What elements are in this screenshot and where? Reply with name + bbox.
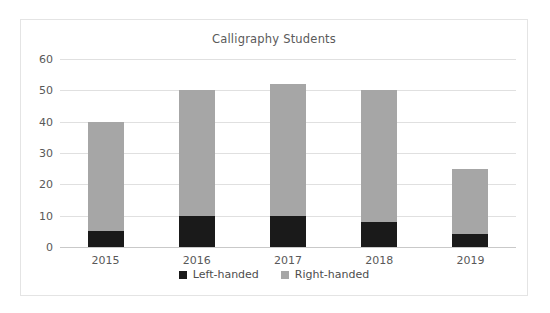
legend-item-left-handed[interactable]: Left-handed	[179, 268, 259, 281]
legend-label-right-handed: Right-handed	[295, 268, 369, 281]
bar-segment[interactable]	[88, 231, 124, 247]
y-axis-tick-label: 0	[46, 241, 53, 254]
bar-segment[interactable]	[361, 222, 397, 247]
legend-swatch-right-handed	[281, 271, 289, 279]
bar-group[interactable]: 2017	[270, 84, 306, 247]
legend-item-right-handed[interactable]: Right-handed	[281, 268, 369, 281]
bar-segment[interactable]	[270, 216, 306, 247]
x-axis-tick-label: 2015	[88, 254, 124, 267]
bar-segment[interactable]	[88, 122, 124, 232]
axis-baseline	[60, 247, 516, 248]
y-axis-tick-label: 10	[39, 209, 53, 222]
chart-frame: Calligraphy Students 0102030405060 20152…	[20, 19, 528, 296]
bar-segment[interactable]	[179, 216, 215, 247]
legend-label-left-handed: Left-handed	[193, 268, 259, 281]
bar-segment[interactable]	[270, 84, 306, 216]
bar-group[interactable]: 2015	[88, 122, 124, 247]
y-axis-tick-label: 20	[39, 178, 53, 191]
plot-area: 0102030405060 20152016201720182019	[60, 59, 516, 247]
x-axis-tick-label: 2018	[361, 254, 397, 267]
chart-title: Calligraphy Students	[21, 32, 527, 46]
bar-group[interactable]: 2016	[179, 90, 215, 247]
bar-segment[interactable]	[452, 169, 488, 235]
bar-group[interactable]: 2018	[361, 90, 397, 247]
legend-swatch-left-handed	[179, 271, 187, 279]
y-axis-tick-label: 60	[39, 53, 53, 66]
bar-group[interactable]: 2019	[452, 169, 488, 247]
chart-legend: Left-handed Right-handed	[21, 268, 527, 281]
y-axis-tick-label: 50	[39, 84, 53, 97]
x-axis-tick-label: 2016	[179, 254, 215, 267]
y-axis-tick-label: 30	[39, 147, 53, 160]
bar-segment[interactable]	[179, 90, 215, 215]
x-axis-tick-label: 2017	[270, 254, 306, 267]
gridline	[60, 59, 516, 60]
bar-segment[interactable]	[361, 90, 397, 222]
bar-segment[interactable]	[452, 234, 488, 247]
y-axis-tick-label: 40	[39, 115, 53, 128]
x-axis-tick-label: 2019	[452, 254, 488, 267]
